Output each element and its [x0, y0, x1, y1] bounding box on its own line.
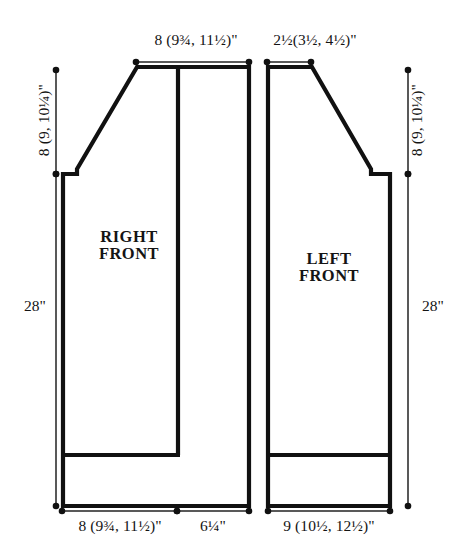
dimline-right-total-length — [53, 171, 60, 510]
label-left-front-shoulder-top: 2½(3½, 4½)" — [259, 32, 371, 48]
label-right-total-length: 28" — [16, 298, 54, 314]
panel-label-right-front-line1: RIGHT — [83, 228, 175, 245]
label-left-front-bottom-width: 9 (10½, 12½)" — [261, 518, 397, 534]
panel-label-right-front-line2: FRONT — [83, 245, 175, 262]
dimline-right-front-band-width — [174, 508, 253, 515]
dimline-left-front-bottom-width — [265, 508, 394, 515]
panel-label-left-front-line1: LEFT — [283, 250, 375, 267]
dimline-right-front-shoulder-top — [133, 59, 253, 66]
label-right-front-band-width: 6¼" — [180, 518, 246, 534]
left-front-outline — [268, 67, 390, 506]
label-right-armhole-depth: 8 (9, 10¼)" — [36, 60, 52, 180]
dimline-left-total-length — [405, 171, 412, 510]
garment-schematic-diagram: 8 (9¾, 11½)" 2½(3½, 4½)" 8 (9, 10¼)" 28"… — [0, 0, 455, 560]
label-right-front-shoulder-top: 8 (9¾, 11½)" — [136, 32, 256, 48]
dimline-right-front-bottom-width — [59, 508, 181, 515]
panel-label-left-front-line2: FRONT — [283, 267, 375, 284]
dimline-left-front-shoulder-top — [264, 59, 315, 66]
schematic-line-art — [0, 0, 455, 560]
label-left-total-length: 28" — [414, 298, 452, 314]
right-front-outline — [63, 67, 249, 506]
label-right-front-bottom-width: 8 (9¾, 11½)" — [58, 518, 182, 534]
dimline-right-armhole-depth — [53, 67, 60, 178]
panel-label-left-front: LEFT FRONT — [283, 250, 375, 285]
label-left-armhole-depth: 8 (9, 10¼)" — [409, 60, 425, 180]
panel-label-right-front: RIGHT FRONT — [83, 228, 175, 263]
